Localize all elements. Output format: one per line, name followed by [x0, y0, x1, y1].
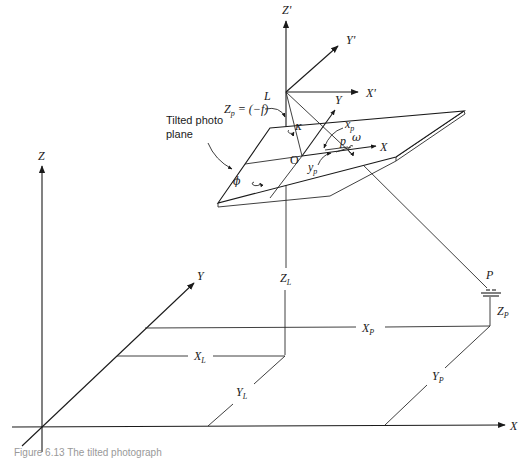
ground-y-axis	[22, 283, 194, 446]
omega-label: ω	[352, 131, 361, 144]
y-prime-label: Y'	[346, 33, 356, 47]
photo-plane-face	[218, 111, 464, 203]
xp-ground-label: XP	[361, 321, 374, 337]
callout-label-line2: plane	[166, 128, 193, 140]
ground-z-label: Z	[38, 149, 45, 163]
xp-ground-line-left	[145, 327, 356, 328]
callout-label-line1: Tilted photo	[166, 114, 223, 126]
ground-x-label: X	[509, 419, 518, 433]
image-point-label: p	[339, 134, 346, 148]
ground-y-label: Y	[197, 269, 205, 283]
tilted-photo-plane-callout: Tilted photo plane	[166, 114, 232, 169]
yp-ground-label: YP	[432, 369, 444, 385]
yp-ground-line-lower	[385, 385, 427, 425]
ground-point-offsets: XP ZP YP P	[145, 153, 509, 425]
xp-ground-line-right	[385, 326, 490, 327]
tilted-photo-plane: X Y O p xp yp κ ω ϕ Zp = (−f)	[218, 92, 465, 207]
z-prime-label: Z'	[282, 3, 292, 17]
camera-ground-offsets: ZL XL YL	[117, 183, 292, 426]
ground-point-label: P	[485, 268, 494, 282]
xl-label: XL	[193, 349, 206, 365]
yp-ground-line-upper	[445, 326, 490, 368]
yl-label: YL	[236, 385, 248, 401]
ground-axes: Z X Y	[12, 149, 518, 452]
kappa-label: κ	[294, 120, 303, 133]
zl-label: ZL	[280, 271, 292, 287]
callout-arrow	[208, 143, 232, 169]
zp-ground-label: ZP	[497, 304, 509, 320]
ground-point-marker-icon	[481, 290, 501, 296]
yl-line-upper	[254, 356, 285, 384]
perspective-center-label: L	[263, 89, 271, 103]
origin-label: O	[290, 153, 299, 167]
photo-x-label: X	[379, 140, 388, 154]
photo-y-label: Y	[335, 93, 343, 107]
ground-x-axis	[12, 425, 505, 427]
yl-line-lower	[208, 404, 233, 426]
y-prime-axis	[286, 46, 338, 92]
ray-p-to-P	[351, 153, 487, 288]
figure-caption: Figure 6.13 The tilted photograph	[14, 447, 162, 458]
phi-label: ϕ	[233, 175, 241, 188]
focal-length-label: Zp = (−f)	[224, 102, 268, 118]
photogrammetry-diagram: Z X Y ZL XL YL XP ZP YP	[0, 0, 520, 458]
x-prime-label: X'	[365, 86, 376, 100]
